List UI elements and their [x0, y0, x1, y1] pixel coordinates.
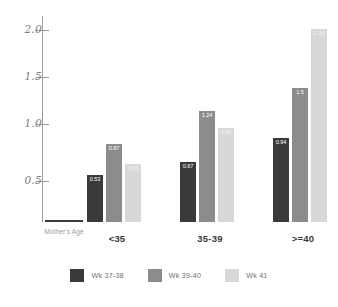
bar-value-label: 1.05 — [218, 130, 234, 136]
bar-wk39-40[interactable]: 1.5 — [292, 88, 308, 222]
bar-value-label: 0.53 — [87, 177, 103, 183]
bar-value-label: 0.65 — [125, 166, 141, 172]
x-axis-category-lt35: <35 — [87, 233, 147, 244]
legend: Wk 37-38 Wk 39-40 Wk 41 — [0, 269, 338, 282]
legend-swatch-icon — [225, 269, 239, 282]
bar-wk37-38[interactable]: 0.67 — [180, 162, 196, 222]
x-axis-category-gte40: >=40 — [273, 233, 333, 244]
legend-item-wk41[interactable]: Wk 41 — [225, 269, 267, 282]
bar-wk41[interactable]: 2.16 — [311, 29, 327, 222]
legend-item-wk39-40[interactable]: Wk 39-40 — [148, 269, 201, 282]
bar-wk37-38[interactable]: 0.53 — [87, 175, 103, 223]
bar-value-label: 2.16 — [311, 31, 327, 37]
legend-item-wk37-38[interactable]: Wk 37-38 — [70, 269, 123, 282]
y-tick-label: 0.5 — [12, 174, 42, 186]
y-tick-label: 1.5 — [12, 70, 42, 82]
bar-group-35-39: 0.67 1.24 1.05 — [180, 16, 234, 222]
x-axis-reference-label: Mother's Age — [34, 228, 94, 235]
legend-swatch-icon — [70, 269, 84, 282]
y-tick-label: 2.0 — [12, 23, 42, 35]
reference-baseline-bar — [45, 220, 83, 222]
legend-label: Wk 41 — [246, 271, 267, 280]
bar-group-lt35: 0.53 0.87 0.65 — [87, 16, 141, 222]
bar-wk41[interactable]: 0.65 — [125, 164, 141, 222]
bar-value-label: 1.5 — [292, 90, 308, 96]
bar-group-gte40: 0.94 1.5 2.16 — [273, 16, 327, 222]
bar-value-label: 0.67 — [180, 164, 196, 170]
legend-label: Wk 37-38 — [91, 271, 123, 280]
legend-label: Wk 39-40 — [169, 271, 201, 280]
bar-value-label: 1.24 — [199, 113, 215, 119]
bar-wk37-38[interactable]: 0.94 — [273, 138, 289, 222]
bar-wk41[interactable]: 1.05 — [218, 128, 234, 222]
y-tick-label: 1.0 — [12, 117, 42, 129]
bar-value-label: 0.94 — [273, 140, 289, 146]
bar-wk39-40[interactable]: 1.24 — [199, 111, 215, 222]
bar-value-label: 0.87 — [106, 146, 122, 152]
bar-chart: 2.0 1.5 1.0 0.5 0.53 0.87 0.65 — [0, 0, 338, 307]
bar-wk39-40[interactable]: 0.87 — [106, 144, 122, 222]
plot-area: 0.53 0.87 0.65 0.67 1.24 1.05 0.94 — [43, 16, 330, 222]
x-axis-category-35-39: 35-39 — [180, 233, 240, 244]
legend-swatch-icon — [148, 269, 162, 282]
